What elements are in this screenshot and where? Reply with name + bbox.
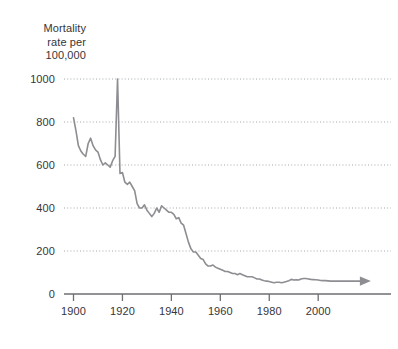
series-end-arrow-icon xyxy=(360,277,371,286)
gridlines-group xyxy=(64,79,391,251)
x-tick-label-1900: 1900 xyxy=(61,305,86,317)
data-series-line xyxy=(74,79,371,286)
y-tick-label-1000: 1000 xyxy=(30,73,55,85)
y-tick-labels: 02004006008001000 xyxy=(30,73,55,300)
x-tick-labels: 190019201940196019802000 xyxy=(61,305,331,317)
x-tick-label-1980: 1980 xyxy=(257,305,282,317)
chart-plot-area: 02004006008001000 1900192019401960198020… xyxy=(0,0,398,349)
mortality-rate-chart: Mortality rate per 100,000 0200400600800… xyxy=(0,0,398,349)
y-tick-label-800: 800 xyxy=(36,116,55,128)
series-line-mortality-rate xyxy=(74,79,360,283)
y-tick-label-0: 0 xyxy=(49,288,55,300)
y-tick-label-400: 400 xyxy=(36,202,55,214)
y-tick-label-200: 200 xyxy=(36,245,55,257)
x-tick-label-2000: 2000 xyxy=(306,305,331,317)
x-tick-label-1960: 1960 xyxy=(208,305,233,317)
x-tick-marks xyxy=(74,294,319,301)
y-tick-label-600: 600 xyxy=(36,159,55,171)
x-tick-label-1940: 1940 xyxy=(159,305,184,317)
x-tick-label-1920: 1920 xyxy=(110,305,135,317)
